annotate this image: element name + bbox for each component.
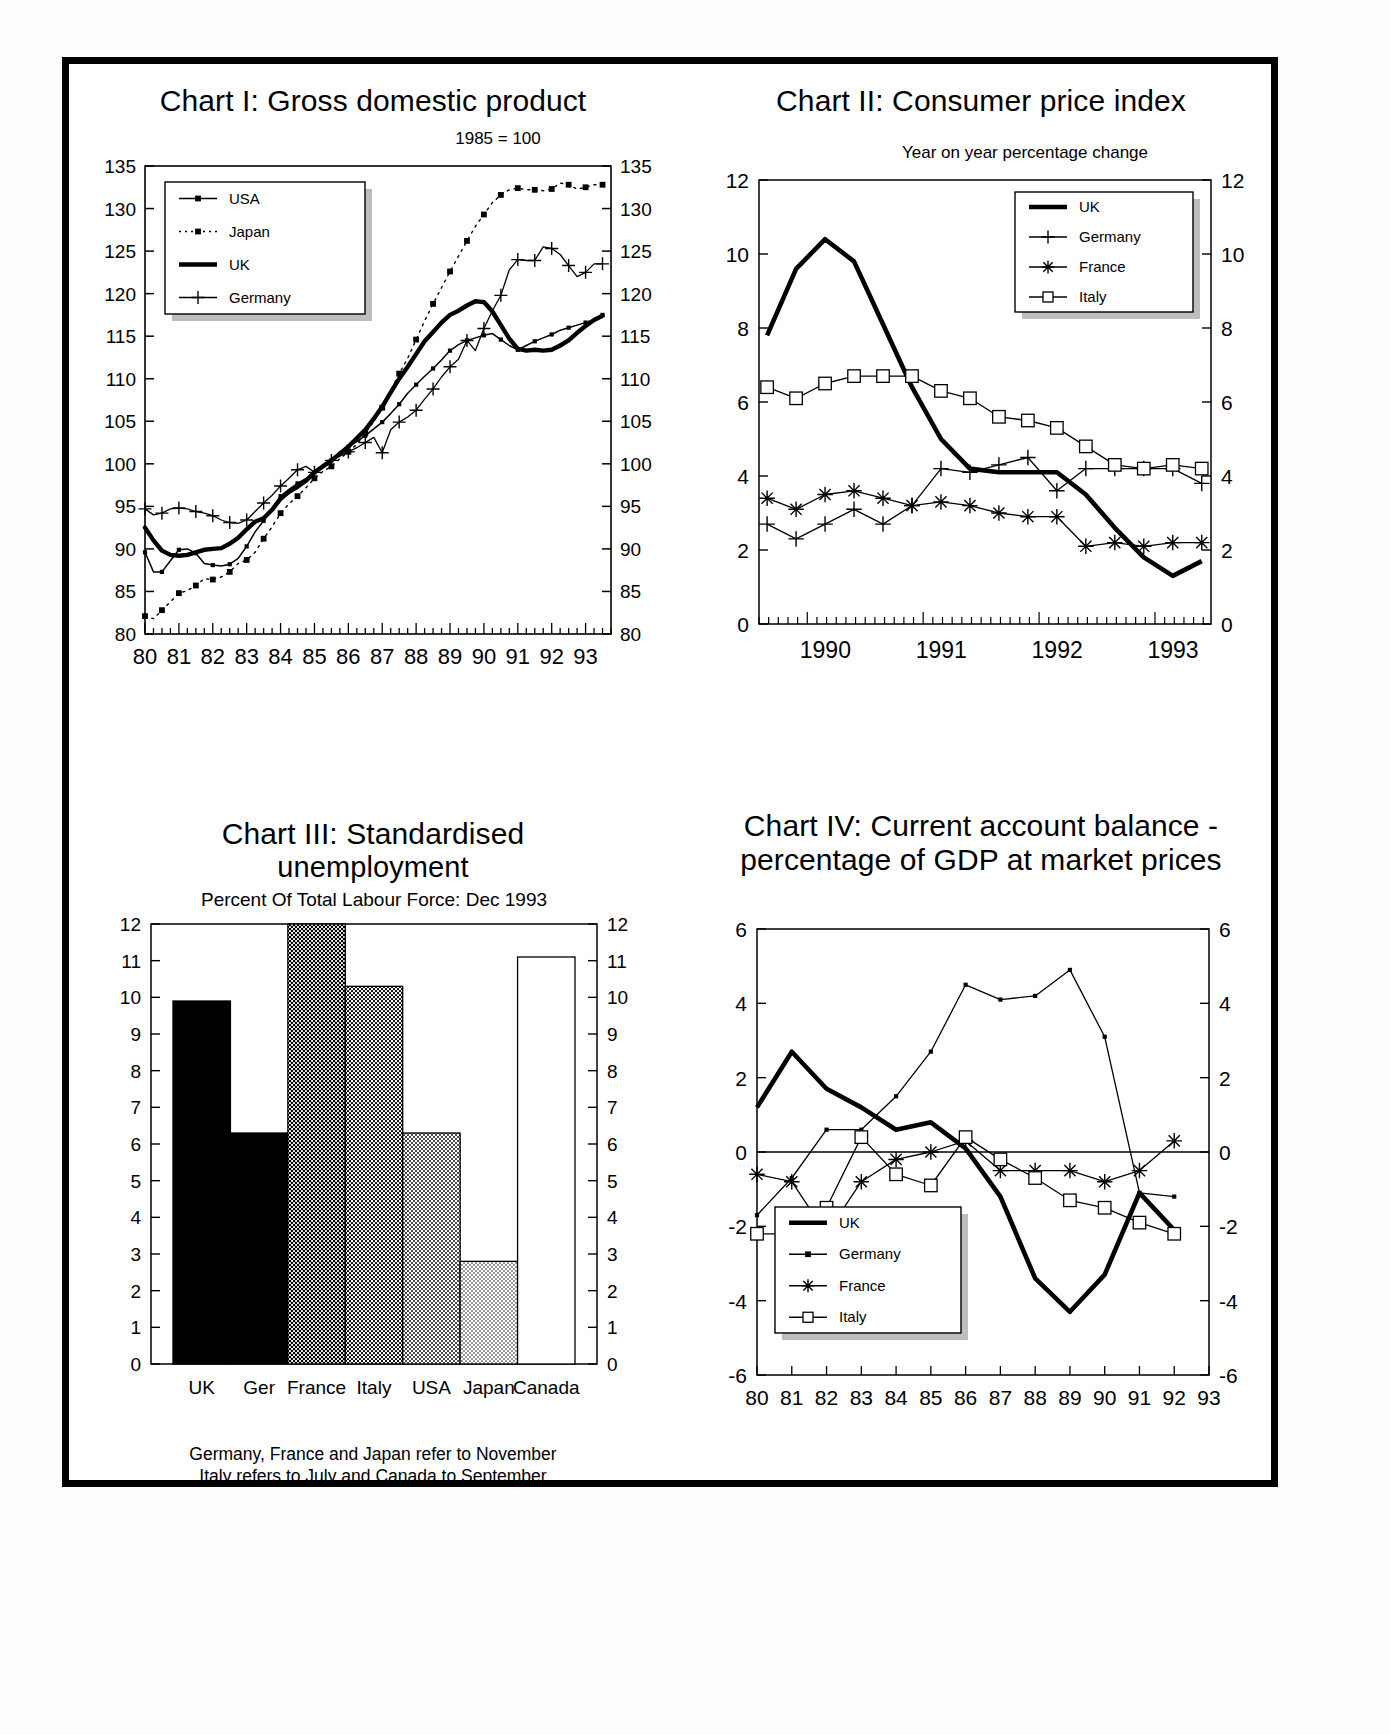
bar-italy bbox=[345, 986, 402, 1364]
x-tick-label: 82 bbox=[201, 644, 225, 669]
chart-2-header-note: Year on year percentage change bbox=[902, 143, 1148, 162]
y-tick-label: 6 bbox=[737, 391, 749, 414]
marker-square bbox=[1109, 459, 1122, 472]
x-tick-label: 1993 bbox=[1147, 637, 1198, 663]
marker-plus bbox=[562, 259, 575, 272]
bar-category-label: France bbox=[287, 1377, 346, 1398]
marker-square bbox=[1138, 462, 1151, 475]
y-tick-label: 0 bbox=[735, 1141, 747, 1164]
marker-asterisk bbox=[1132, 1163, 1148, 1179]
bar-rect bbox=[518, 957, 575, 1364]
marker-dot bbox=[549, 186, 555, 192]
y-tick-label: 90 bbox=[115, 539, 136, 560]
y-tick-label: -6 bbox=[728, 1364, 747, 1387]
y-tick-label: 95 bbox=[115, 496, 136, 517]
marker-asterisk bbox=[788, 501, 804, 517]
chart-2-title: Chart II: Consumer price index bbox=[677, 64, 1285, 118]
y-tick-label: 0 bbox=[737, 613, 749, 636]
chart-1-panel: Chart I: Gross domestic product 1985 = 1… bbox=[69, 64, 677, 779]
y-tick-label: 8 bbox=[607, 1060, 618, 1081]
y-tick-label: 12 bbox=[607, 914, 628, 935]
x-tick-label: 83 bbox=[850, 1386, 873, 1409]
legend-label: UK bbox=[1079, 198, 1100, 215]
marker-dot bbox=[481, 211, 487, 217]
y-tick-label: 6 bbox=[130, 1134, 141, 1155]
chart-3-footnote: Germany, France and Japan refer to Novem… bbox=[69, 1444, 677, 1488]
y-tick-label: 12 bbox=[1221, 169, 1244, 192]
marker-asterisk bbox=[802, 1279, 815, 1292]
y-tick-label: 12 bbox=[726, 169, 749, 192]
marker-square bbox=[751, 1227, 764, 1240]
x-tick-label: 81 bbox=[780, 1386, 803, 1409]
bar-rect bbox=[345, 986, 402, 1364]
x-tick-label: 85 bbox=[919, 1386, 942, 1409]
bar-uk bbox=[173, 1001, 230, 1364]
chart-4-plot: -6-6-4-4-2-20022446680818283848586878889… bbox=[681, 877, 1281, 1467]
y-tick-label: 95 bbox=[620, 496, 641, 517]
chart-4-title-line1: Chart IV: Current account balance - bbox=[744, 809, 1218, 842]
y-tick-label: 1 bbox=[607, 1317, 618, 1338]
bar-category-label: Ger bbox=[243, 1377, 275, 1398]
marker-asterisk bbox=[1107, 535, 1123, 551]
x-tick-label: 89 bbox=[1058, 1386, 1081, 1409]
marker-plus bbox=[376, 446, 389, 459]
y-tick-label: 10 bbox=[726, 243, 749, 266]
y-tick-label: 130 bbox=[104, 198, 136, 219]
series-line bbox=[767, 376, 1202, 469]
marker-plus bbox=[189, 505, 202, 518]
x-tick-label: 93 bbox=[573, 644, 597, 669]
marker-dot bbox=[894, 1094, 898, 1098]
chart-1-title: Chart I: Gross domestic product bbox=[69, 64, 677, 118]
y-tick-label: 5 bbox=[607, 1170, 618, 1191]
marker-dot bbox=[261, 536, 267, 542]
marker-dot bbox=[447, 269, 453, 275]
y-tick-label: 80 bbox=[115, 624, 136, 645]
x-tick-label: 80 bbox=[745, 1386, 768, 1409]
y-tick-label: 4 bbox=[1221, 465, 1233, 488]
bar-category-label: Japan bbox=[463, 1377, 515, 1398]
marker-asterisk bbox=[759, 490, 775, 506]
y-tick-label: 6 bbox=[735, 918, 747, 941]
y-tick-label: 80 bbox=[620, 624, 641, 645]
marker-dot bbox=[567, 325, 571, 329]
marker-dot bbox=[964, 982, 968, 986]
y-tick-label: 2 bbox=[1219, 1066, 1231, 1089]
marker-square bbox=[1167, 459, 1180, 472]
bar-category-label: UK bbox=[189, 1377, 216, 1398]
marker-plus bbox=[494, 289, 507, 302]
x-tick-label: 88 bbox=[404, 644, 428, 669]
series-france bbox=[759, 483, 1209, 554]
marker-dot bbox=[159, 607, 165, 613]
marker-square bbox=[803, 1312, 813, 1322]
y-tick-label: -2 bbox=[1219, 1215, 1238, 1238]
y-tick-label: 0 bbox=[1221, 613, 1233, 636]
x-tick-label: 87 bbox=[989, 1386, 1012, 1409]
y-tick-label: 135 bbox=[620, 156, 652, 177]
series-germany bbox=[755, 968, 1176, 1218]
y-tick-label: 125 bbox=[620, 241, 652, 262]
y-tick-label: -4 bbox=[728, 1289, 747, 1312]
marker-asterisk bbox=[854, 1174, 870, 1190]
y-tick-label: 7 bbox=[130, 1097, 141, 1118]
chart-3-header-note: Percent Of Total Labour Force: Dec 1993 bbox=[201, 889, 547, 910]
x-tick-label: 91 bbox=[506, 644, 530, 669]
chart-4-panel: Chart IV: Current account balance - perc… bbox=[677, 779, 1285, 1482]
marker-square bbox=[877, 370, 890, 383]
marker-square bbox=[1195, 462, 1208, 475]
marker-square bbox=[994, 1153, 1007, 1166]
bar-category-label: USA bbox=[412, 1377, 451, 1398]
x-tick-label: 84 bbox=[884, 1386, 908, 1409]
marker-dot bbox=[498, 192, 504, 198]
marker-square bbox=[1133, 1216, 1146, 1229]
marker-square bbox=[848, 370, 861, 383]
marker-asterisk bbox=[933, 494, 949, 510]
y-tick-label: 4 bbox=[737, 465, 749, 488]
marker-square bbox=[1168, 1227, 1181, 1240]
y-tick-label: 100 bbox=[620, 454, 652, 475]
y-tick-label: 4 bbox=[607, 1207, 618, 1228]
chart-2-plot: Year on year percentage change0022446688… bbox=[681, 118, 1281, 758]
marker-dot bbox=[430, 301, 436, 307]
series-line bbox=[757, 970, 1174, 1215]
x-tick-label: 86 bbox=[336, 644, 360, 669]
series-line bbox=[767, 491, 1202, 547]
